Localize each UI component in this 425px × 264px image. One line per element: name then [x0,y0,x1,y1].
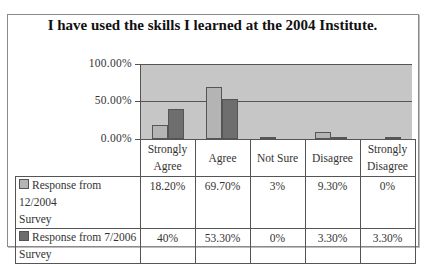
cell: 9.30% [305,177,360,229]
cell: 0% [250,229,305,264]
cell: 69.70% [195,177,250,229]
category-strongly-disagree: StronglyDisagree [360,140,415,177]
cell: 3% [250,177,305,229]
cell: 3.30% [305,229,360,264]
table-row: Response from 7/2006Survey 40% 53.30% 0%… [16,229,416,264]
y-tick-50: 50.00% [62,94,132,106]
legend-swatch-icon [19,179,29,189]
cell: 0% [360,177,415,229]
category-disagree: Disagree [305,140,360,177]
bar [168,109,184,139]
legend-swatch-icon [19,231,29,241]
gridline-50 [141,101,412,102]
chart-title: I have used the skills I learned at the … [0,17,425,34]
category-agree: Agree [195,140,250,177]
table-row: Response from 12/2004Survey 18.20% 69.70… [16,177,416,229]
bar [315,132,331,139]
legend-series-2004: Response from 12/2004Survey [16,177,141,229]
cell: 40% [140,229,195,264]
cell: 3.30% [360,229,415,264]
category-strongly-agree: StronglyAgree [140,140,195,177]
gridline-100 [141,64,412,65]
bar [152,125,168,139]
cell: 18.20% [140,177,195,229]
bar [206,87,222,139]
category-not-sure: Not Sure [250,140,305,177]
legend-series-2006: Response from 7/2006Survey [16,229,141,264]
data-table: StronglyAgree Agree Not Sure Disagree St… [15,139,416,264]
bar [222,99,238,139]
cell: 53.30% [195,229,250,264]
y-tick-100: 100.00% [62,57,132,69]
plot-area [140,64,412,139]
